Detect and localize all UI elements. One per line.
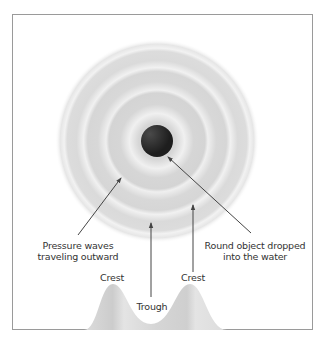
object-line2: into the water: [197, 251, 313, 262]
crest-left-label: Crest: [92, 272, 132, 283]
object-label: Round object dropped into the water: [197, 240, 313, 262]
crest-right-label: Crest: [173, 272, 213, 283]
trough-label: Trough: [130, 301, 174, 312]
pressure-waves-label: Pressure waves traveling outward: [30, 240, 126, 262]
round-object-ball: [141, 125, 173, 157]
pressure-waves-line1: Pressure waves: [30, 240, 126, 251]
pressure-waves-line2: traveling outward: [30, 251, 126, 262]
object-line1: Round object dropped: [197, 240, 313, 251]
ripple-diagram: [0, 0, 326, 343]
